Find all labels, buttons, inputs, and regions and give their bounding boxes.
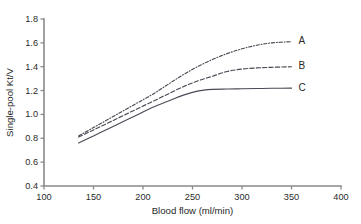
series-label-B: B (299, 60, 306, 71)
x-tick-label-5: 350 (284, 192, 299, 202)
x-tick-label-4: 300 (234, 192, 249, 202)
y-axis-title: Single-pool Kt/V (4, 68, 15, 137)
y-tick-label-3: 1.0 (25, 109, 38, 119)
chart-axes (44, 19, 341, 186)
y-tick-label-4: 1.2 (25, 86, 38, 96)
series-curve-B (79, 67, 292, 137)
y-tick-label-6: 1.6 (25, 38, 38, 48)
series-label-A: A (299, 35, 306, 46)
x-tick-label-0: 100 (36, 192, 51, 202)
series-curve-C (79, 88, 292, 143)
x-tick-label-3: 250 (185, 192, 200, 202)
line-chart: 0.40.60.81.01.21.41.61.81001502002503003… (0, 0, 361, 224)
series-label-C: C (299, 82, 306, 93)
chart-figure: 0.40.60.81.01.21.41.61.81001502002503003… (0, 0, 361, 224)
y-tick-label-2: 0.8 (25, 133, 38, 143)
y-tick-label-0: 0.4 (25, 181, 38, 191)
y-tick-label-5: 1.4 (25, 62, 38, 72)
x-tick-label-2: 200 (135, 192, 150, 202)
y-tick-label-1: 0.6 (25, 157, 38, 167)
y-tick-label-7: 1.8 (25, 14, 38, 24)
x-tick-label-1: 150 (86, 192, 101, 202)
x-tick-label-6: 400 (333, 192, 348, 202)
x-axis-title: Blood flow (ml/min) (152, 205, 234, 216)
